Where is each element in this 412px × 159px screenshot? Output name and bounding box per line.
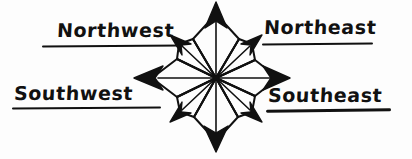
compass-rose-figure: Northwest Northeast Southwest Southeast	[0, 0, 412, 159]
label-southeast: Southeast	[268, 86, 383, 105]
compass-center-hub	[213, 75, 218, 80]
label-northwest: Northwest	[57, 21, 175, 40]
label-northeast: Northeast	[264, 18, 377, 37]
label-southwest: Southwest	[14, 84, 134, 103]
